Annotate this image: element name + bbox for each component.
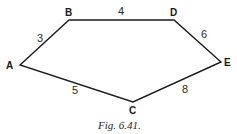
edge-label-ec: 8 <box>182 83 188 95</box>
figure-caption: Fig. 6.41. <box>97 119 141 131</box>
edge-label-ab: 3 <box>37 32 43 44</box>
vertex-label-d: D <box>170 7 177 18</box>
pentagon-outline <box>20 20 221 102</box>
vertex-label-c: C <box>129 105 136 116</box>
edge-label-ca: 5 <box>72 84 78 96</box>
edge-label-bd: 4 <box>118 5 124 17</box>
pentagon-diagram: A B D E C 3 4 6 8 5 Fig. 6.41. <box>0 0 237 134</box>
vertex-label-b: B <box>65 7 72 18</box>
vertex-label-a: A <box>6 60 13 71</box>
edge-label-de: 6 <box>201 28 207 40</box>
vertex-label-e: E <box>224 57 231 68</box>
